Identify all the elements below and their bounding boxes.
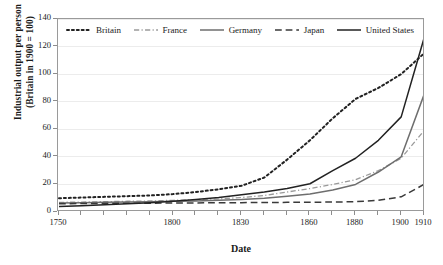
legend-swatch-icon (274, 26, 300, 34)
y-tick-label: 120 (20, 40, 51, 50)
x-axis-title: Date (57, 243, 425, 254)
legend-swatch-icon (66, 26, 92, 34)
x-tick-label: 1830 (226, 217, 256, 227)
x-tick-mark (217, 211, 218, 215)
y-tick-label: 0 (20, 205, 51, 215)
x-tick-mark (308, 211, 309, 215)
x-tick-mark (377, 211, 378, 215)
x-tick-label: 1750 (43, 217, 73, 227)
x-tick-mark (286, 211, 287, 215)
x-tick-mark (172, 211, 173, 215)
x-tick-label: 1860 (294, 217, 324, 227)
x-tick-mark (354, 211, 355, 215)
x-tick-mark (240, 211, 241, 215)
legend-label: Germany (229, 26, 263, 35)
y-tick-label: 140 (20, 12, 51, 22)
x-tick-mark (331, 211, 332, 215)
x-tick-mark (149, 211, 150, 215)
x-tick-label: 1910 (408, 217, 438, 227)
chart-legend: BritainFranceGermanyJapanUnited States (60, 22, 420, 38)
x-tick-label: 1880 (340, 217, 370, 227)
legend-item-japan[interactable]: Japan (274, 26, 325, 35)
legend-label: Britain (96, 26, 121, 35)
x-tick-label: 1800 (157, 217, 187, 227)
series-layer (58, 19, 424, 211)
y-tick-label: 80 (20, 95, 51, 105)
legend-label: France (163, 26, 188, 35)
y-tick-label: 100 (20, 67, 51, 77)
x-tick-mark (423, 211, 424, 215)
x-tick-mark (80, 211, 81, 215)
x-tick-mark (194, 211, 195, 215)
legend-label: Japan (304, 26, 325, 35)
legend-label: United States (366, 26, 414, 35)
legend-swatch-icon (199, 26, 225, 34)
industrial-output-line-chart: Industrial output per person (Britain in… (0, 0, 443, 265)
legend-item-united-states[interactable]: United States (336, 26, 414, 35)
legend-item-britain[interactable]: Britain (66, 26, 121, 35)
legend-swatch-icon (133, 26, 159, 34)
series-line-united-states (59, 38, 424, 206)
y-tick-label: 20 (20, 177, 51, 187)
plot-area (57, 18, 424, 211)
x-tick-mark (126, 211, 127, 215)
x-tick-mark (263, 211, 264, 215)
x-tick-mark (58, 211, 59, 215)
legend-swatch-icon (336, 26, 362, 34)
y-tick-label: 40 (20, 150, 51, 160)
legend-item-germany[interactable]: Germany (199, 26, 263, 35)
series-line-france (59, 131, 424, 203)
y-tick-label: 60 (20, 122, 51, 132)
x-tick-mark (400, 211, 401, 215)
legend-item-france[interactable]: France (133, 26, 188, 35)
x-tick-mark (103, 211, 104, 215)
